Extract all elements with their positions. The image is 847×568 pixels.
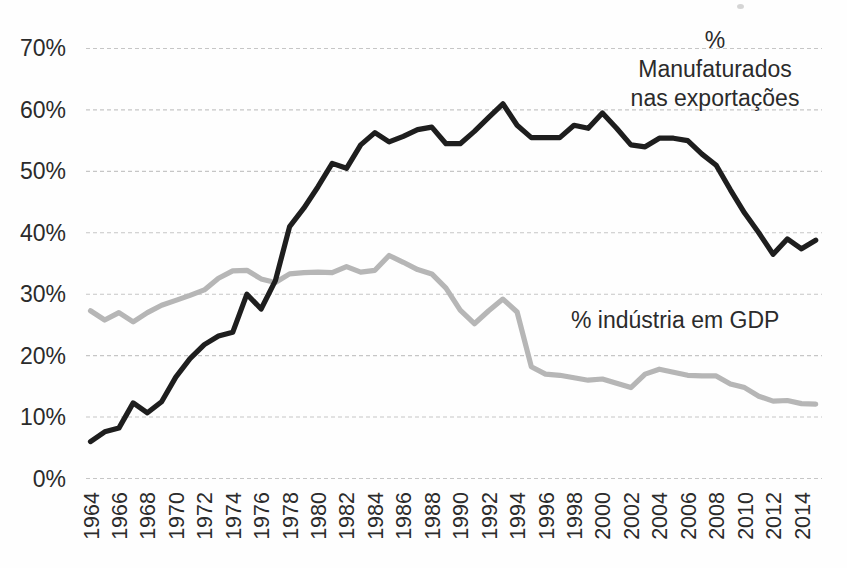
x-tick-label-2008: 2008 xyxy=(705,492,729,540)
manufactured-exports-line xyxy=(91,104,816,442)
y-tick-label-70: 70% xyxy=(20,35,66,61)
x-tick-label-2010: 2010 xyxy=(734,492,758,540)
x-tick-label-1982: 1982 xyxy=(335,492,359,540)
x-tick-label-1988: 1988 xyxy=(421,492,445,540)
x-tick-label-2014: 2014 xyxy=(791,492,815,540)
y-tick-label-30: 30% xyxy=(20,281,66,307)
x-tick-label-2000: 2000 xyxy=(591,492,615,540)
x-tick-label-1994: 1994 xyxy=(506,492,530,540)
x-tick-label-1980: 1980 xyxy=(307,492,331,540)
x-tick-label-1964: 1964 xyxy=(80,492,104,540)
y-tick-label-50: 50% xyxy=(20,158,66,184)
x-axis-labels: 1964196619681970197219741976197819801982… xyxy=(80,492,815,540)
legend-manufactured-line1: % xyxy=(599,26,831,55)
y-tick-label-10: 10% xyxy=(20,404,66,430)
x-tick-label-1992: 1992 xyxy=(478,492,502,540)
x-tick-label-1970: 1970 xyxy=(165,492,189,540)
y-tick-label-60: 60% xyxy=(20,97,66,123)
y-tick-label-20: 20% xyxy=(20,343,66,369)
x-tick-label-1976: 1976 xyxy=(250,492,274,540)
legend-manufactured-line3: nas exportações xyxy=(599,84,831,113)
legend-manufactured-exports: % Manufaturados nas exportações xyxy=(599,26,831,113)
x-tick-label-1986: 1986 xyxy=(392,492,416,540)
y-tick-label-40: 40% xyxy=(20,220,66,246)
scan-artifact-speck xyxy=(737,4,744,9)
x-tick-label-1974: 1974 xyxy=(222,492,246,540)
legend-manufactured-line2: Manufaturados xyxy=(599,55,831,84)
y-tick-label-0: 0% xyxy=(33,466,66,492)
x-tick-label-1972: 1972 xyxy=(193,492,217,540)
series-lines xyxy=(91,104,816,442)
legend-industry-gdp: % indústria em GDP xyxy=(571,306,781,335)
x-tick-label-2004: 2004 xyxy=(648,492,672,540)
x-tick-label-1984: 1984 xyxy=(364,492,388,540)
legend-industry-text: % indústria em GDP xyxy=(571,307,779,333)
x-tick-label-2012: 2012 xyxy=(762,492,786,540)
y-axis-labels: 0%10%20%30%40%50%60%70% xyxy=(20,35,66,491)
x-tick-label-2002: 2002 xyxy=(620,492,644,540)
chart-figure: 0%10%20%30%40%50%60%70% 1964196619681970… xyxy=(0,0,847,568)
x-tick-label-1968: 1968 xyxy=(136,492,160,540)
x-tick-label-2006: 2006 xyxy=(677,492,701,540)
x-tick-label-1998: 1998 xyxy=(563,492,587,540)
x-tick-label-1996: 1996 xyxy=(535,492,559,540)
x-tick-label-1978: 1978 xyxy=(279,492,303,540)
x-tick-label-1966: 1966 xyxy=(108,492,132,540)
x-tick-label-1990: 1990 xyxy=(449,492,473,540)
